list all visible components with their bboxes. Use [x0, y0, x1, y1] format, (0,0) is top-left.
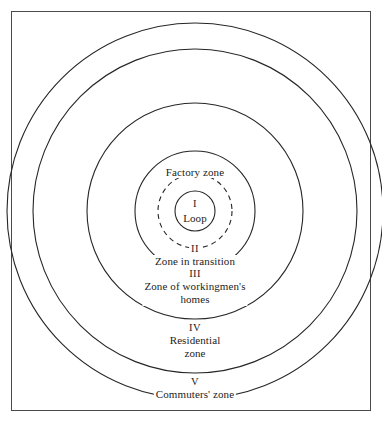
label-zone-in-transition-name: Zone in transition — [153, 255, 237, 268]
transition-numeral: II — [191, 243, 199, 255]
label-factory-zone: Factory zone — [165, 166, 225, 178]
workingmens-name-line2: homes — [144, 293, 245, 306]
label-workingmens-homes: III Zone of workingmen's homes — [142, 268, 247, 306]
concentric-zone-diagram: I Loop Factory zone II Zone in transitio… — [0, 0, 382, 423]
residential-numeral: IV — [170, 322, 221, 334]
label-commuters-zone: V Commuters' zone — [154, 376, 236, 401]
workingmens-name-line1: Zone of workingmen's — [144, 280, 245, 293]
label-loop: I Loop — [183, 197, 207, 225]
factory-zone-name: Factory zone — [166, 166, 224, 178]
label-residential-zone: IV Residential zone — [168, 322, 223, 360]
commuters-name: Commuters' zone — [156, 388, 234, 401]
label-zone-in-transition: II — [189, 243, 201, 255]
loop-name: Loop — [183, 211, 207, 225]
residential-name-line2: zone — [170, 347, 221, 360]
commuters-numeral: V — [156, 376, 234, 388]
transition-name: Zone in transition — [155, 255, 235, 268]
workingmens-numeral: III — [144, 268, 245, 280]
loop-numeral: I — [183, 197, 207, 211]
residential-name-line1: Residential — [170, 334, 221, 347]
